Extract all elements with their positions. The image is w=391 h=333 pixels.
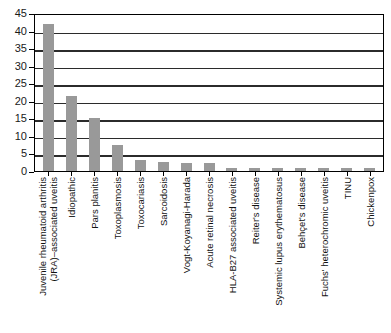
y-axis-tick-label: 20 [15, 95, 27, 108]
x-axis-label-slot: Chickenpox [359, 177, 382, 329]
y-axis: 454035302520151050 [0, 14, 34, 172]
x-axis-label: Behçet's disease [296, 177, 307, 249]
x-axis-label-line: Pars planitis [88, 177, 99, 229]
x-axis-label: HLA-B27 associated uveitis [227, 177, 238, 293]
bar-slot [129, 15, 152, 171]
bar-slot [198, 15, 221, 171]
x-axis-tick-mark [301, 172, 302, 176]
x-axis-tick-mark [140, 172, 141, 176]
x-axis-label-line: (JRA)–associated uveitis [48, 177, 59, 296]
bar-slot [243, 15, 266, 171]
bar-slot [37, 15, 60, 171]
bar[interactable] [318, 168, 329, 172]
x-axis-tick-mark [347, 172, 348, 176]
x-axis-label: Toxoplasmosis [111, 177, 122, 239]
y-axis-tick-label: 0 [21, 165, 27, 178]
x-axis-label: Idiopathic [65, 177, 76, 218]
x-axis-tick-mark [232, 172, 233, 176]
x-axis-tick-mark [209, 172, 210, 176]
x-axis-tick-mark [48, 172, 49, 176]
x-axis-label-slot: Fuchs' heterochromic uveitis [313, 177, 336, 329]
x-axis-tick-mark [255, 172, 256, 176]
x-axis-tick-mark [94, 172, 95, 176]
bar[interactable] [272, 168, 283, 172]
x-axis-tick-mark [278, 172, 279, 176]
bar-slot [175, 15, 198, 171]
x-axis-tick-mark [163, 172, 164, 176]
bar[interactable] [204, 163, 215, 171]
x-axis-label-slot: Pars planitis [82, 177, 105, 329]
x-axis-label-slot: Idiopathic [59, 177, 82, 329]
x-axis-label-slot: Sarcoidosis [151, 177, 174, 329]
bar-chart: 454035302520151050 Juvenile rheumatoid a… [0, 0, 391, 333]
x-axis-tick-mark [186, 172, 187, 176]
x-axis-label: Toxocariasis [134, 177, 145, 229]
bar[interactable] [364, 168, 375, 172]
x-axis-label-slot: Vogt-Koyanagi-Harada [174, 177, 197, 329]
bar[interactable] [181, 163, 192, 171]
bar[interactable] [226, 168, 237, 172]
x-axis-label-line: Idiopathic [65, 177, 76, 218]
x-axis-tick-mark [370, 172, 371, 176]
x-axis-label-line: Acute retinal necrosis [203, 177, 214, 268]
x-axis-tick-mark [324, 172, 325, 176]
x-axis-label-line: HLA-B27 associated uveitis [227, 177, 238, 293]
x-axis-label-line: Toxocariasis [134, 177, 145, 229]
x-axis-label-line: Fuchs' heterochromic uveitis [319, 177, 330, 297]
x-axis-label-line: Behçet's disease [296, 177, 307, 249]
bar-slot [106, 15, 129, 171]
bar-slot [83, 15, 106, 171]
bar-slot [221, 15, 244, 171]
x-axis-label: Systemic lupus erythematosus [273, 177, 284, 306]
bar[interactable] [135, 160, 146, 171]
bar[interactable] [295, 168, 306, 172]
x-axis-label-slot: Acute retinal necrosis [197, 177, 220, 329]
x-axis-label: Acute retinal necrosis [203, 177, 214, 268]
x-axis-label-slot: Juvenile rheumatoid arthritis(JRA)–assoc… [36, 177, 59, 329]
y-axis-tick-label: 25 [15, 77, 27, 90]
x-axis-label-slot: TINU [336, 177, 359, 329]
bar[interactable] [249, 168, 260, 172]
y-axis-tick-label: 15 [15, 112, 27, 125]
bar-slot [152, 15, 175, 171]
bar[interactable] [66, 96, 77, 171]
bar-slot [289, 15, 312, 171]
x-axis-label-slot: Behçet's disease [290, 177, 313, 329]
y-axis-tick-label: 10 [15, 130, 27, 143]
x-axis-label-slot: HLA-B27 associated uveitis [221, 177, 244, 329]
y-axis-tick-label: 5 [21, 147, 27, 160]
x-axis-label-slot: Toxoplasmosis [105, 177, 128, 329]
x-axis-label: Vogt-Koyanagi-Harada [180, 177, 191, 273]
x-axis-label-slot: Reiter's disease [244, 177, 267, 329]
x-axis-label: Pars planitis [88, 177, 99, 229]
x-axis-label-line: Systemic lupus erythematosus [273, 177, 284, 306]
x-axis-label-slot: Toxocariasis [128, 177, 151, 329]
x-axis-label-line: Vogt-Koyanagi-Harada [180, 177, 191, 273]
bar[interactable] [341, 168, 352, 172]
x-axis-label: Chickenpox [365, 177, 376, 227]
x-axis-label-line: TINU [342, 177, 353, 199]
plot-area [34, 14, 384, 172]
x-axis-label-line: Sarcoidosis [157, 177, 168, 226]
x-axis-label-line: Reiter's disease [250, 177, 261, 244]
x-axis-tick-mark [117, 172, 118, 176]
x-axis-tick-mark [71, 172, 72, 176]
bar-slot [266, 15, 289, 171]
bar[interactable] [89, 118, 100, 171]
y-axis-tick-label: 35 [15, 42, 27, 55]
x-axis-label: Fuchs' heterochromic uveitis [319, 177, 330, 297]
bar[interactable] [112, 145, 123, 171]
x-axis-label-line: Chickenpox [365, 177, 376, 227]
x-axis-label: TINU [342, 177, 353, 199]
bar-slot [335, 15, 358, 171]
y-axis-tick-label: 45 [15, 7, 27, 20]
bars-layer [35, 15, 383, 171]
bar[interactable] [43, 24, 54, 171]
x-axis-label: Sarcoidosis [157, 177, 168, 226]
x-axis-label-line: Toxoplasmosis [111, 177, 122, 239]
bar-slot [358, 15, 381, 171]
x-axis-label-slot: Systemic lupus erythematosus [267, 177, 290, 329]
y-axis-tick-label: 30 [15, 60, 27, 73]
x-axis-labels: Juvenile rheumatoid arthritis(JRA)–assoc… [34, 177, 384, 329]
bar[interactable] [158, 162, 169, 171]
